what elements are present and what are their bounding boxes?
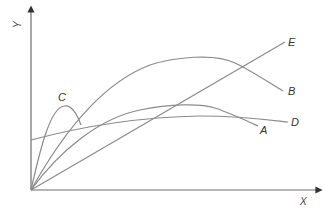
curve-d xyxy=(31,116,288,140)
curve-b-label: B xyxy=(288,85,295,97)
curve-e xyxy=(31,42,285,190)
curve-e-label: E xyxy=(288,36,296,48)
curve-d-label: D xyxy=(291,116,299,128)
curve-a-label: A xyxy=(259,124,267,136)
x-axis-label: X xyxy=(299,196,307,207)
curve-b xyxy=(31,57,283,190)
curve-diagram: Y X E B A D C xyxy=(0,0,324,214)
curve-a xyxy=(31,105,258,190)
curve-c-label: C xyxy=(58,91,66,103)
y-axis-label: Y xyxy=(12,20,23,28)
